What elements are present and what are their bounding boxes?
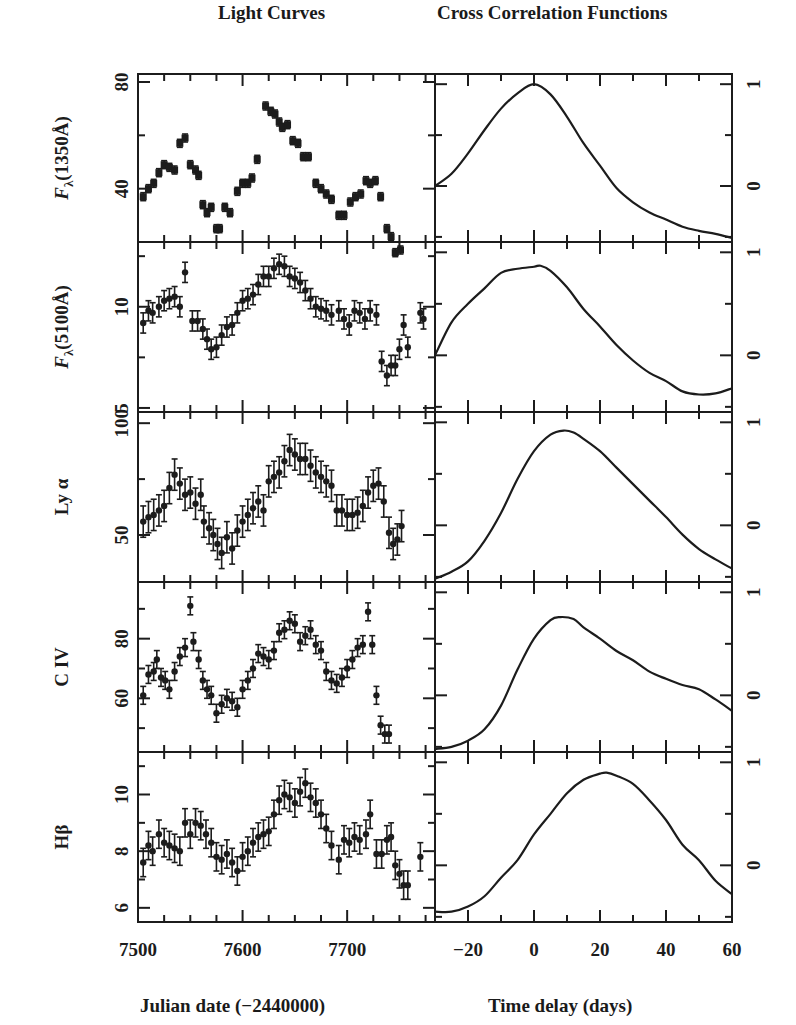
svg-text:0: 0 <box>529 939 539 960</box>
svg-text:60: 60 <box>723 939 742 960</box>
ccf-curve <box>435 430 732 578</box>
left-x-axis-label: Julian date (−2440000) <box>140 995 325 1017</box>
y-tick-label: 6 <box>111 903 132 913</box>
ccf-panel-4: 01 <box>435 582 764 752</box>
right-x-tick-labels: −200204060 <box>453 939 741 960</box>
y-tick-label: 50 <box>111 526 132 545</box>
svg-text:−20: −20 <box>453 939 483 960</box>
svg-text:7500: 7500 <box>119 939 157 960</box>
y-tick-label: 80 <box>111 73 132 92</box>
y-axis-label: C IV <box>51 647 72 687</box>
y-tick-label: 80 <box>111 629 132 648</box>
ccf-panel-1: 01 <box>435 74 764 242</box>
right-x-axis-label: Time delay (days) <box>488 995 632 1017</box>
ccf-y-tick-label: 0 <box>743 691 764 701</box>
data-points <box>140 102 404 257</box>
y-axis-label: Fλ(5100Å) <box>51 285 76 369</box>
ccf-y-tick-label: 1 <box>743 588 764 598</box>
ccf-curve <box>435 772 732 912</box>
light-curve-panel-5: 6810Hβ <box>51 752 435 922</box>
ccf-y-tick-label: 0 <box>743 351 764 361</box>
y-tick-label: 10 <box>111 297 132 316</box>
y-tick-label: 10 <box>111 785 132 804</box>
ccf-y-tick-label: 1 <box>743 418 764 428</box>
ccf-panel-2: 01 <box>435 242 764 412</box>
ccf-panel-5: 01 <box>435 752 764 922</box>
ccf-panel-3: 01 <box>435 412 764 582</box>
svg-text:20: 20 <box>591 939 610 960</box>
data-points <box>140 434 405 568</box>
data-points <box>140 254 427 386</box>
light-curve-panel-4: 6080C IV <box>51 582 435 752</box>
y-tick-label: 100 <box>111 409 132 438</box>
y-axis-label: Hβ <box>51 825 72 850</box>
ccf-curve <box>435 617 732 749</box>
light-curve-panel-1: 4080Fλ(1350Å) <box>51 73 435 257</box>
ccf-curve <box>435 265 732 394</box>
figure-canvas: 4080Fλ(1350Å)01510Fλ(5100Å)0150100Ly α01… <box>0 0 796 1025</box>
ccf-y-tick-label: 1 <box>743 758 764 768</box>
ccf-y-tick-label: 0 <box>743 181 764 191</box>
svg-text:40: 40 <box>657 939 676 960</box>
ccf-y-tick-label: 0 <box>743 861 764 871</box>
ccf-y-tick-label: 1 <box>743 79 764 89</box>
svg-text:7600: 7600 <box>224 939 262 960</box>
ccf-y-tick-label: 1 <box>743 248 764 258</box>
data-points <box>140 597 392 743</box>
ccf-y-tick-label: 0 <box>743 521 764 531</box>
light-curve-panel-2: 510Fλ(5100Å) <box>51 242 435 413</box>
light-curve-panel-3: 50100Ly α <box>51 409 435 582</box>
data-points <box>140 769 424 899</box>
y-axis-label: Fλ(1350Å) <box>51 116 76 200</box>
y-tick-label: 60 <box>111 689 132 708</box>
y-axis-label: Ly α <box>51 478 72 515</box>
svg-text:7700: 7700 <box>328 939 366 960</box>
ccf-curve <box>435 84 732 238</box>
y-tick-label: 40 <box>111 179 132 198</box>
y-tick-label: 8 <box>111 846 132 856</box>
left-x-tick-labels: 750076007700 <box>119 939 366 960</box>
